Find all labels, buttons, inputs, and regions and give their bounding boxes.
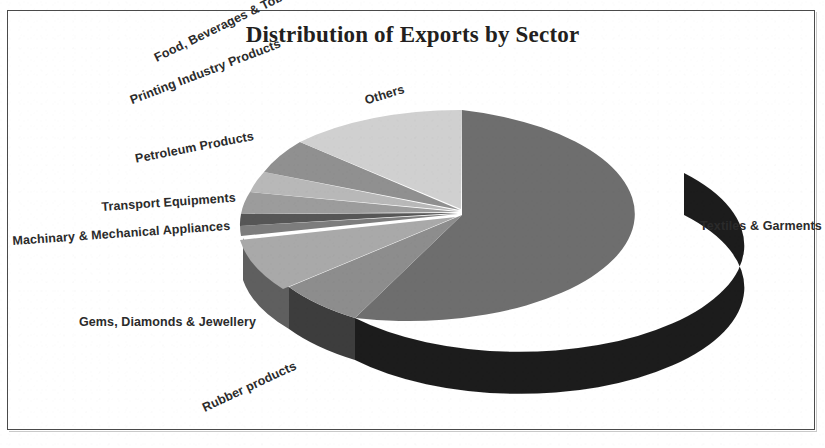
pie-chart: Food, Beverages & Tobacco Printing Indus… (0, 0, 825, 448)
slice-label-gems: Gems, Diamonds & Jewellery (79, 315, 256, 329)
chart-page: Distribution of Exports by Sector (0, 0, 825, 448)
slice-label-textiles: Textiles & Garments (700, 219, 822, 233)
pie-top-faces (240, 110, 635, 321)
